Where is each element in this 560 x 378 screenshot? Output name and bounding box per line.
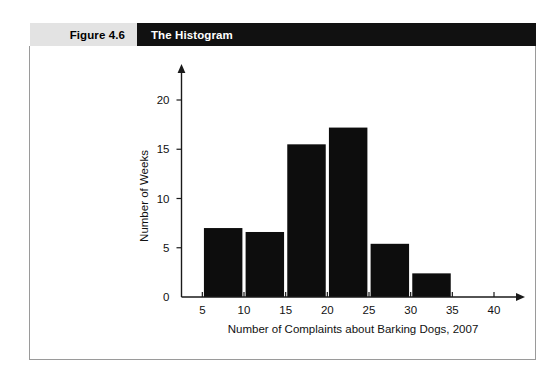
figure-title-band: The Histogram (137, 23, 536, 46)
figure-number-label: Figure 4.6 (70, 29, 125, 41)
figure-caption-bar: Figure 4.6 The Histogram (30, 23, 536, 46)
figure-frame (29, 46, 536, 360)
figure-title-label: The Histogram (151, 29, 233, 41)
figure-number-band: Figure 4.6 (30, 23, 137, 46)
